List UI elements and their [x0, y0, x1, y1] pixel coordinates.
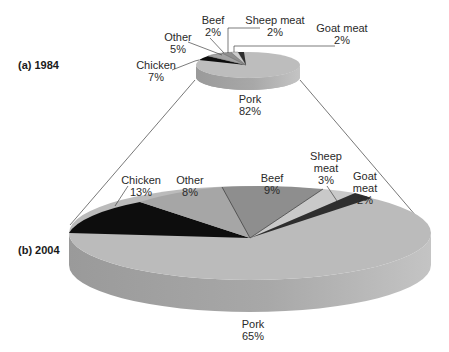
- label-2004-sheep-meat: Sheepmeat3%: [309, 150, 343, 186]
- chart-title-2004: (b) 2004: [18, 244, 60, 256]
- label-1984-beef: Beef2%: [199, 14, 227, 38]
- label-2004-goat-meat: Goatmeat2%: [350, 170, 380, 206]
- label-1984-chicken: Chicken7%: [135, 59, 177, 83]
- label-2004-other: Other8%: [174, 174, 206, 198]
- label-2004-beef: Beef9%: [257, 172, 287, 196]
- label-1984-sheep-meat: Sheep meat2%: [245, 14, 305, 38]
- label-2004-pork: Pork65%: [237, 318, 269, 342]
- label-1984-pork: Pork82%: [234, 93, 266, 117]
- pie-1984: [196, 52, 300, 90]
- label-1984-goat-meat: Goat meat2%: [313, 22, 371, 46]
- chart-title-1984: (a) 1984: [18, 59, 59, 71]
- label-2004-chicken: Chicken13%: [120, 174, 162, 198]
- pie-chart-canvas: [0, 0, 449, 352]
- label-1984-other: Other5%: [162, 31, 194, 55]
